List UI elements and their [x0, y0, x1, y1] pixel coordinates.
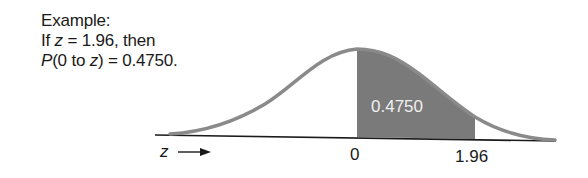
normal-curve-chart — [0, 0, 588, 178]
arrow-right-icon — [200, 148, 211, 156]
shaded-area — [357, 49, 475, 139]
tick-label-z: 1.96 — [455, 147, 488, 167]
shaded-area-label: 0.4750 — [371, 97, 423, 117]
x-axis-line — [155, 135, 556, 141]
tick-label-zero: 0 — [350, 145, 359, 165]
axis-variable-label: z — [160, 142, 169, 162]
